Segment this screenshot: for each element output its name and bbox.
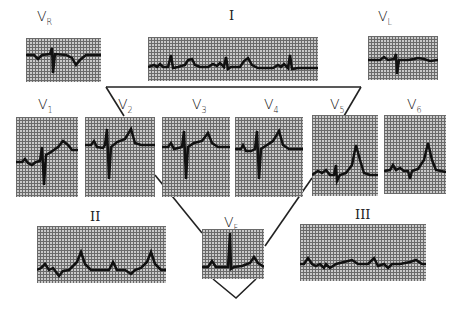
ecg-strip-v4: [235, 117, 303, 197]
lead-label-vr: VR: [37, 8, 52, 27]
lead-label-vl: VL: [378, 8, 392, 27]
lead-label-i: I: [229, 8, 234, 23]
ecg-strip-v1: [16, 117, 78, 197]
ecg-strip-v2: [85, 117, 155, 197]
ecg-strip-i: [148, 37, 318, 81]
ecg-strip-v5: [312, 115, 378, 196]
ecg-strip-v6: [384, 115, 446, 194]
lead-label-iii: III: [355, 207, 370, 222]
ecg-strip-iii: [300, 224, 426, 281]
lead-label-v5: V5: [330, 96, 345, 115]
lead-label-ii: II: [90, 209, 100, 224]
lead-label-v4: V4: [264, 96, 279, 115]
ecg-strip-v3: [162, 117, 230, 197]
ecg-strip-vf: [202, 229, 264, 279]
ecg-strip-ii: [37, 226, 166, 283]
lead-label-v2: V2: [118, 96, 133, 115]
lead-label-v1: V1: [38, 96, 53, 115]
lead-label-v6: V6: [407, 96, 422, 115]
lead-label-v3: V3: [192, 96, 207, 115]
ecg-strip-vl: [368, 36, 438, 80]
ecg-strip-vr: [26, 38, 101, 82]
